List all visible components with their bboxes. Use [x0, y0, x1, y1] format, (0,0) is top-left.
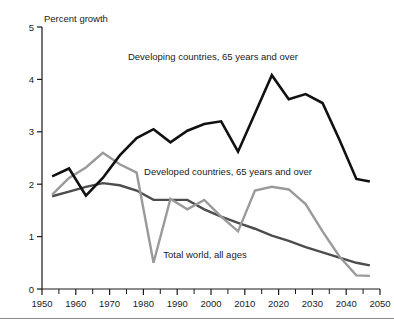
y-tick-label: 4 [29, 74, 34, 85]
x-tick-label: 2040 [336, 298, 357, 309]
x-tick-label: 1990 [167, 298, 188, 309]
series-annotation: Developing countries, 65 years and over [128, 51, 298, 62]
y-axis-title: Percent growth [44, 13, 108, 24]
x-tick-label: 2010 [234, 298, 255, 309]
chart-container: 0123451950196019701980199020002010202020… [0, 0, 394, 328]
x-tick-label: 1960 [65, 298, 86, 309]
y-tick-label: 1 [29, 231, 34, 242]
chart-annotations: Developing countries, 65 years and overD… [128, 51, 312, 260]
growth-line-chart: 0123451950196019701980199020002010202020… [0, 0, 394, 328]
y-tick-label: 0 [29, 284, 34, 295]
y-tick-label: 2 [29, 179, 34, 190]
y-tick-label: 5 [29, 22, 34, 33]
x-tick-label: 1950 [31, 298, 52, 309]
x-tick-label: 2020 [268, 298, 289, 309]
x-tick-label: 2030 [302, 298, 323, 309]
series-line-developing-countries-65-years-and-over [52, 75, 370, 196]
x-tick-label: 2000 [200, 298, 221, 309]
series-annotation: Developed countries, 65 years and over [144, 166, 312, 177]
x-tick-label: 1970 [99, 298, 120, 309]
footer-divider [0, 318, 394, 319]
x-tick-label: 2050 [369, 298, 390, 309]
y-tick-label: 3 [29, 126, 34, 137]
series-annotation: Total world, all ages [163, 249, 247, 260]
x-tick-label: 1980 [133, 298, 154, 309]
